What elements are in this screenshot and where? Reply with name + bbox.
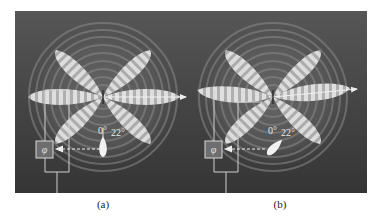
angle-label-22: 22° xyxy=(111,127,125,138)
angle-label-0: 0° xyxy=(98,125,107,136)
phase-shifter-label: φ xyxy=(42,144,48,155)
caption-a: (a) xyxy=(88,198,118,210)
caption-b: (b) xyxy=(265,198,295,210)
angle-label-22: 22° xyxy=(281,127,295,138)
beam-pattern-figure: φ 0° 22° xyxy=(0,0,379,217)
angle-label-0: 0° xyxy=(268,125,277,136)
phase-shifter-label: φ xyxy=(211,144,217,155)
